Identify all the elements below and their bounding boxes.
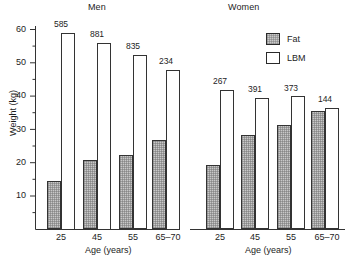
bar-label-men-45: 881 [90, 29, 104, 39]
x-tick-label-women-6570: 65–70 [314, 232, 339, 242]
bar-women-fat-55 [277, 125, 291, 230]
y-tick-label-40: 40 [8, 90, 26, 100]
bar-women-fat-6570 [311, 111, 325, 229]
bar-label-women-45: 391 [248, 84, 262, 94]
x-tick-label-women-25: 25 [215, 232, 225, 242]
y-tick-label-50: 50 [8, 57, 26, 67]
bar-women-fat-25 [206, 165, 220, 230]
x-tick-label-men-6570: 65–70 [155, 232, 180, 242]
x-tick-label-men-55: 55 [128, 232, 138, 242]
bar-women-lbm-25 [220, 90, 234, 230]
bar-women-lbm-55 [291, 96, 305, 229]
x-tick-label-men-25: 25 [56, 232, 66, 242]
bar-men-lbm-55 [133, 55, 147, 230]
chart-figure: Men Women Weight (kg) Age (years) Age (y… [0, 0, 352, 262]
x-tick-label-men-45: 45 [92, 232, 102, 242]
y-tick-label-30: 30 [8, 124, 26, 134]
bar-men-fat-6570 [152, 140, 166, 230]
bar-women-fat-45 [241, 135, 255, 230]
bar-women-lbm-6570 [325, 108, 339, 230]
bar-men-lbm-25 [61, 33, 75, 230]
y-tick-label-60: 60 [8, 24, 26, 34]
bar-label-women-25: 267 [213, 76, 227, 86]
bar-men-fat-25 [47, 181, 61, 229]
bar-women-lbm-45 [255, 98, 269, 230]
bar-label-women-6570: 144 [318, 94, 332, 104]
bar-men-lbm-45 [97, 43, 111, 230]
bar-label-women-55: 373 [284, 83, 298, 93]
bar-label-men-6570: 234 [159, 56, 173, 66]
bar-men-fat-55 [119, 155, 133, 230]
y-tick-label-20: 20 [8, 157, 26, 167]
x-tick-label-women-55: 55 [286, 232, 296, 242]
bar-men-lbm-6570 [166, 70, 180, 230]
bar-men-fat-45 [83, 160, 97, 230]
bar-label-men-55: 835 [126, 41, 140, 51]
bar-label-men-25: 585 [54, 19, 68, 29]
x-tick-label-women-45: 45 [250, 232, 260, 242]
y-tick-label-10: 10 [8, 190, 26, 200]
